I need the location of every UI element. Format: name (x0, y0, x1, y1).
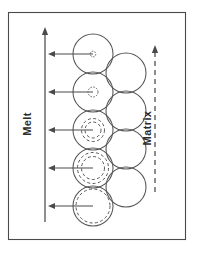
matrix-axis-label: Matrix (141, 110, 153, 145)
melt-axis-head (42, 27, 48, 35)
melt-matrix-diagram: Melt Matrix (0, 0, 198, 255)
flux-arrow-1-head (48, 51, 55, 57)
flux-arrow-5-head (48, 203, 55, 209)
diagram-border (9, 13, 186, 240)
melt-axis-label: Melt (21, 112, 33, 136)
flux-arrow-3-head (48, 127, 55, 133)
matrix-particle-group (106, 53, 146, 207)
flux-arrow-2-head (48, 89, 55, 95)
flux-arrow-4-head (48, 165, 55, 171)
flux-arrow-group (48, 51, 93, 209)
matrix-axis-head (152, 45, 158, 53)
figure-root: Melt Matrix (0, 0, 198, 255)
